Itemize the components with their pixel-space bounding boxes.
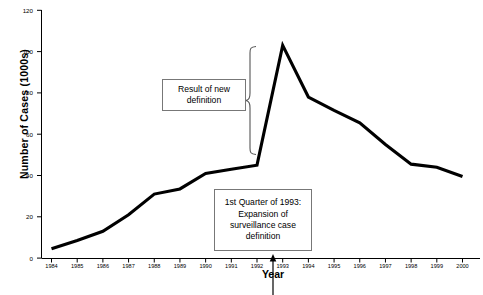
x-tick-label: 1988 bbox=[141, 263, 167, 270]
annotation-line: definition bbox=[178, 95, 230, 106]
y-tick-label: 0 bbox=[11, 255, 33, 262]
annotation-line: Expansion of bbox=[225, 209, 301, 220]
x-axis-ticks bbox=[52, 259, 463, 263]
annotation-surveillance-case-definition: 1st Quarter of 1993: Expansion of survei… bbox=[214, 189, 312, 251]
x-tick-label: 1989 bbox=[167, 263, 193, 270]
x-tick-label: 1984 bbox=[39, 263, 65, 270]
x-tick-label: 2000 bbox=[450, 263, 476, 270]
x-tick-label: 1990 bbox=[193, 263, 219, 270]
annotation-result-of-new-definition: Result of new definition bbox=[162, 79, 246, 111]
annotation-line: surveillance case bbox=[225, 220, 301, 231]
annotation-line: Result of new bbox=[178, 84, 230, 95]
annotation-line: definition bbox=[225, 231, 301, 242]
y-tick-label: 20 bbox=[11, 213, 33, 220]
y-axis-title: Number of Cases (1000s) bbox=[18, 44, 30, 184]
x-tick-label: 1987 bbox=[116, 263, 142, 270]
annotation-line: 1st Quarter of 1993: bbox=[225, 197, 301, 208]
y-tick-label: 120 bbox=[11, 7, 33, 14]
x-tick-label: 1996 bbox=[347, 263, 373, 270]
x-tick-label: 1986 bbox=[90, 263, 116, 270]
curly-brace-icon bbox=[246, 47, 256, 155]
x-tick-label: 1998 bbox=[398, 263, 424, 270]
x-axis-title: Year bbox=[235, 268, 311, 280]
y-axis-ticks bbox=[37, 10, 42, 258]
x-tick-label: 1999 bbox=[424, 263, 450, 270]
x-tick-label: 1997 bbox=[372, 263, 398, 270]
x-tick-label: 1985 bbox=[64, 263, 90, 270]
x-tick-label: 1995 bbox=[321, 263, 347, 270]
chart-container: 020406080100120 198419851986198719881989… bbox=[0, 0, 483, 295]
